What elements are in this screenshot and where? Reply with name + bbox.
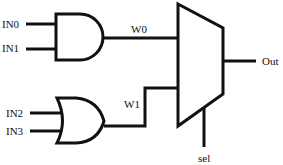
- wire-w1: [104, 88, 178, 126]
- or-gate-icon: [57, 98, 104, 143]
- wire-label-w1: W1: [124, 98, 140, 110]
- input-label-in2: IN2: [6, 107, 23, 119]
- and-gate-icon: [56, 14, 103, 60]
- wire-label-w0: W0: [131, 23, 147, 35]
- select-label: sel: [198, 152, 210, 164]
- mux-icon: [178, 4, 223, 126]
- circuit-diagram: IN0 IN1 IN2 IN3 W0 W1 Out sel: [0, 0, 283, 165]
- input-label-in0: IN0: [2, 18, 20, 30]
- output-label: Out: [262, 55, 279, 67]
- input-label-in3: IN3: [6, 125, 24, 137]
- input-label-in1: IN1: [2, 42, 19, 54]
